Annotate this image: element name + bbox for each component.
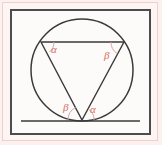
diagram-page: α β β α	[0, 0, 162, 145]
angle-beta-bottom-left: β	[63, 102, 68, 113]
arc-beta-top-right	[111, 42, 117, 53]
angle-beta-top-right: β	[104, 50, 109, 61]
circle-shape	[31, 19, 133, 121]
angle-alpha-top-left: α	[51, 44, 57, 55]
geometry-diagram	[0, 0, 162, 145]
arc-beta-bottom-left	[68, 108, 76, 121]
angle-alpha-bottom-right: α	[90, 104, 96, 115]
